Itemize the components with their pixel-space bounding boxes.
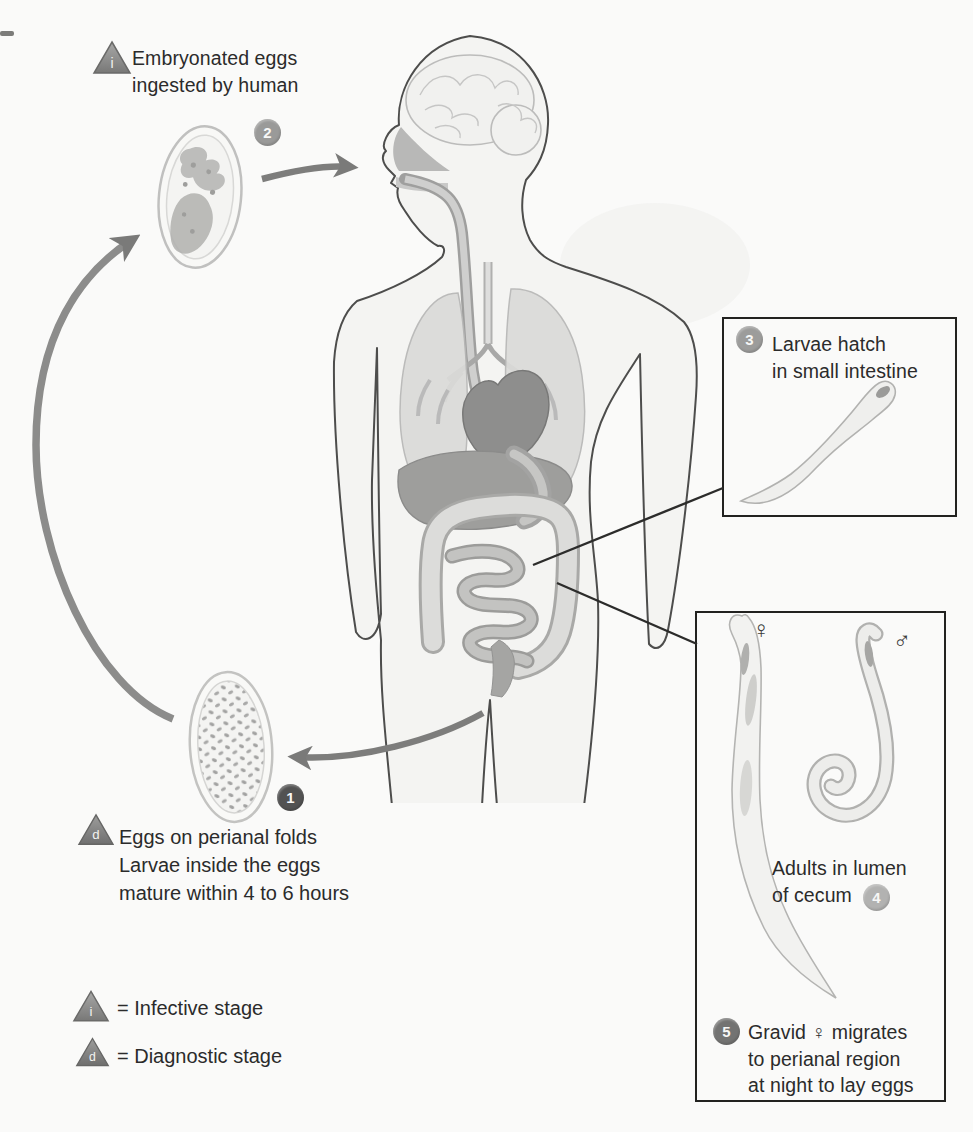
legend-infective-label: = Infective stage (117, 997, 263, 1020)
step-2-circle: 2 (254, 119, 281, 146)
esophagus (405, 179, 502, 448)
rectum (491, 640, 514, 697)
step-1-circle: 1 (277, 784, 304, 811)
female-symbol: ♀ (752, 616, 770, 644)
step-5-label: Gravid ♀ migrates to perianal region at … (748, 1019, 933, 1099)
diagnostic-letter: d (92, 827, 99, 842)
arrow-egg-to-mouth (262, 167, 350, 180)
scan-edge-artifact (0, 31, 14, 36)
lungs (400, 289, 585, 504)
legend-diagnostic-letter: d (89, 1050, 96, 1064)
diagnostic-triangle-icon: d (77, 813, 115, 847)
leg-fade-mask (370, 803, 610, 833)
leader-line-small-intestine (533, 488, 723, 565)
step-1-label: Eggs on perianal folds Larvae inside the… (119, 823, 389, 907)
infective-triangle-icon: i (92, 40, 132, 76)
trachea (444, 262, 534, 404)
cycle-arrows (36, 167, 483, 758)
mouth-cavity (396, 177, 448, 192)
legend-diagnostic-label: = Diagnostic stage (117, 1045, 282, 1068)
embryonated-egg-illustration (152, 122, 248, 272)
life-cycle-diagram: i Embryonated eggs ingested by human 2 3… (0, 0, 973, 1132)
arrow-cycle-arc (36, 240, 173, 719)
legend-diagnostic-triangle-icon: d (75, 1036, 110, 1069)
male-symbol: ♂ (893, 627, 911, 655)
body-silhouette (334, 36, 697, 806)
heart (463, 371, 549, 464)
nasal-cavity (393, 127, 450, 171)
legend-infective-triangle-icon: i (72, 989, 110, 1024)
step-3-label: Larvae hatch in small intestine (772, 331, 947, 384)
brain (406, 55, 541, 155)
step-2-label: Embryonated eggs ingested by human (132, 45, 342, 98)
small-intestine (452, 551, 531, 661)
stomach (514, 454, 543, 521)
scan-shading (560, 203, 750, 327)
legend-infective-letter: i (90, 1004, 93, 1019)
arrow-body-to-egg (296, 713, 483, 757)
liver (398, 451, 572, 529)
perianal-egg-illustration (185, 669, 277, 824)
large-intestine (431, 505, 568, 668)
step-3-circle: 3 (736, 326, 763, 353)
step-5-circle: 5 (713, 1018, 740, 1045)
step-4-circle: 4 (863, 884, 890, 911)
leader-line-cecum (557, 583, 697, 644)
infective-letter: i (110, 55, 113, 71)
step-4-label: Adults in lumen of cecum (772, 855, 932, 908)
human-figure (334, 36, 697, 806)
